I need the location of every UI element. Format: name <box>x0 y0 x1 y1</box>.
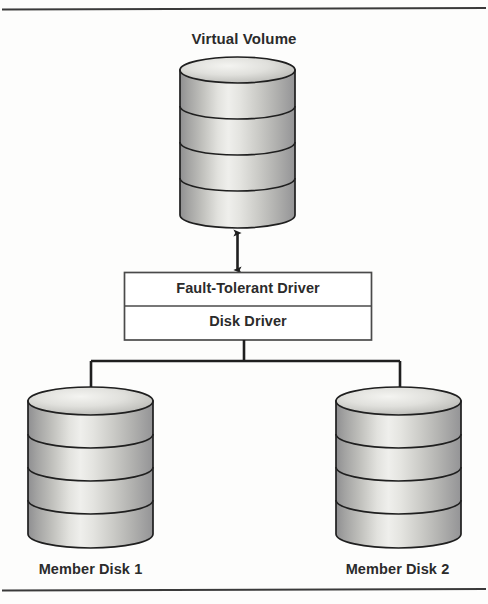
member-disk-1-cylinder <box>28 387 153 548</box>
member-disk-2-label: Member Disk 2 <box>307 561 488 577</box>
fault-tolerant-driver-label: Fault-Tolerant Driver <box>124 280 372 296</box>
diagram-canvas <box>0 0 488 604</box>
member-disk-2-cylinder <box>336 387 461 548</box>
member-disk-1-label: Member Disk 1 <box>0 561 181 577</box>
figure-container: Virtual Volume Fault-Tolerant Driver Dis… <box>0 0 488 604</box>
virtual-volume-title: Virtual Volume <box>0 30 488 47</box>
virtual-volume-cylinder <box>180 57 295 228</box>
disk-driver-label: Disk Driver <box>124 313 372 329</box>
top-rule <box>2 8 486 10</box>
bottom-rule <box>2 589 486 591</box>
